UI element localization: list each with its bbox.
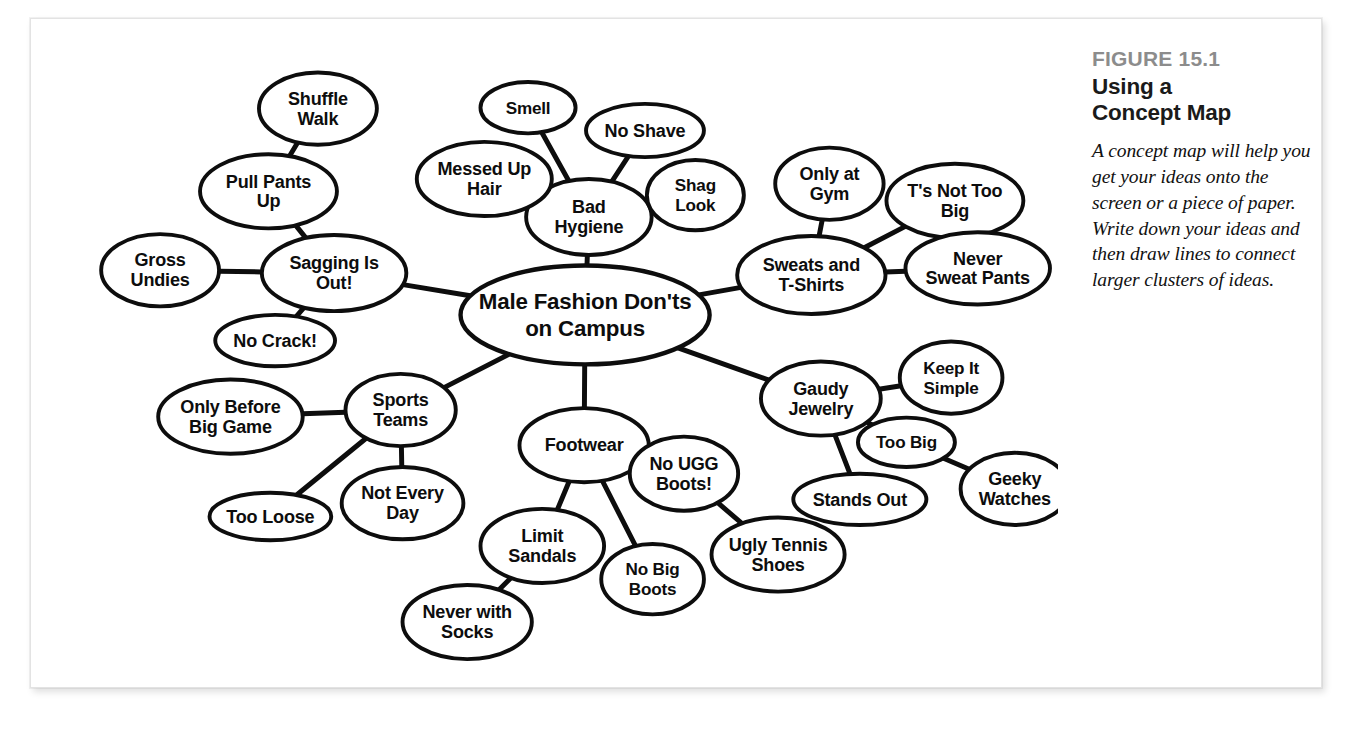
figure-caption: FIGURE 15.1 Using a Concept Map A concep… xyxy=(1092,48,1314,293)
figure-title-line-1: Using a xyxy=(1092,74,1314,100)
concept-edge xyxy=(612,156,629,182)
node-label: Footwear xyxy=(545,435,624,455)
node-label: Too Big xyxy=(876,433,937,452)
concept-edge xyxy=(864,226,905,247)
concept-node[interactable]: Not EveryDay xyxy=(342,467,464,539)
figure-title: Using a Concept Map xyxy=(1092,74,1314,125)
concept-node[interactable]: Sagging IsOut! xyxy=(262,235,407,311)
concept-node[interactable]: GaudyJewelry xyxy=(761,362,881,436)
figure-page: Male Fashion Don'tson CampusSagging IsOu… xyxy=(0,0,1354,733)
node-label: GeekyWatches xyxy=(979,469,1051,509)
concept-node[interactable]: Only BeforeBig Game xyxy=(158,380,303,454)
node-label: No BigBoots xyxy=(626,560,680,599)
concept-node[interactable]: T's Not TooBig xyxy=(886,164,1023,238)
node-label: Only BeforeBig Game xyxy=(180,397,280,437)
concept-node[interactable]: Smell xyxy=(480,82,575,133)
concept-node[interactable]: Pull PantsUp xyxy=(200,154,337,228)
concept-edge xyxy=(403,285,470,296)
concept-node[interactable]: Too Big xyxy=(858,418,955,467)
node-layer: Male Fashion Don'tson CampusSagging IsOu… xyxy=(101,72,1058,659)
concept-edge xyxy=(718,503,742,524)
concept-edge xyxy=(290,143,298,157)
concept-edge xyxy=(303,412,346,414)
concept-edge xyxy=(699,287,741,295)
node-label: ShagLook xyxy=(675,176,716,215)
concept-edge xyxy=(944,458,970,469)
concept-node[interactable]: Messed UpHair xyxy=(417,142,552,216)
concept-node[interactable]: Too Loose xyxy=(210,493,332,541)
concept-node[interactable]: No Crack! xyxy=(215,315,335,366)
node-label: No UGGBoots! xyxy=(649,454,718,494)
node-label: No Crack! xyxy=(233,331,317,351)
concept-map-svg: Male Fashion Don'tson CampusSagging IsOu… xyxy=(38,24,1058,680)
concept-node[interactable]: ShuffleWalk xyxy=(259,72,377,144)
concept-node[interactable]: GrossUndies xyxy=(101,234,219,306)
concept-edge xyxy=(678,348,769,380)
node-label: Too Loose xyxy=(226,507,314,527)
node-label: No Shave xyxy=(605,121,686,141)
concept-edge xyxy=(879,386,901,390)
concept-edge xyxy=(296,225,306,238)
figure-title-line-2: Concept Map xyxy=(1092,100,1314,126)
concept-edge xyxy=(602,481,635,546)
concept-node[interactable]: No BigBoots xyxy=(601,544,704,614)
concept-node[interactable]: Only atGym xyxy=(775,148,883,220)
node-label: Stands Out xyxy=(813,490,908,510)
concept-edge xyxy=(444,354,509,388)
concept-map: Male Fashion Don'tson CampusSagging IsOu… xyxy=(38,24,1058,680)
concept-node[interactable]: LimitSandals xyxy=(480,509,604,583)
concept-edge xyxy=(499,578,511,590)
concept-node[interactable]: Sweats andT-Shirts xyxy=(737,236,885,314)
concept-edge xyxy=(219,271,262,272)
concept-node[interactable]: Male Fashion Don'tson Campus xyxy=(461,265,710,364)
concept-edge xyxy=(819,220,822,237)
concept-node[interactable]: No UGGBoots! xyxy=(630,437,738,511)
concept-edge xyxy=(557,481,569,510)
node-label: Keep ItSimple xyxy=(923,359,979,398)
concept-edge xyxy=(835,435,850,474)
concept-node[interactable]: GeekyWatches xyxy=(961,453,1058,525)
concept-node[interactable]: Never withSocks xyxy=(403,585,532,659)
concept-node[interactable]: Stands Out xyxy=(793,474,926,525)
node-label: Smell xyxy=(506,99,551,118)
node-label: GaudyJewelry xyxy=(788,379,853,419)
concept-node[interactable]: SportsTeams xyxy=(345,374,455,446)
concept-edge xyxy=(885,271,905,272)
node-label: GrossUndies xyxy=(131,250,190,290)
node-label: SportsTeams xyxy=(373,390,429,430)
concept-node[interactable]: No Shave xyxy=(586,104,704,157)
concept-node[interactable]: ShagLook xyxy=(647,160,744,230)
figure-number: FIGURE 15.1 xyxy=(1092,48,1314,70)
concept-node[interactable]: Keep ItSimple xyxy=(900,342,1003,414)
figure-body-text: A concept map will help you get your ide… xyxy=(1092,138,1314,292)
concept-node[interactable]: Ugly TennisShoes xyxy=(712,517,845,591)
concept-node[interactable]: NeverSweat Pants xyxy=(905,232,1050,304)
